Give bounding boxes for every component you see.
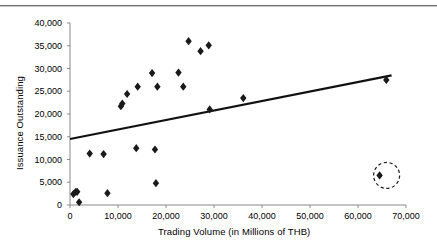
data-point-marker — [206, 41, 212, 49]
x-axis-tick-label: 60,000 — [344, 211, 372, 221]
chart-canvas — [0, 0, 437, 245]
y-axis-tick-label: 30,000 — [0, 64, 62, 74]
data-point-marker — [149, 69, 155, 77]
x-axis-tick-label: 10,000 — [104, 211, 132, 221]
x-axis-tick-label: 50,000 — [296, 211, 324, 221]
data-point-marker — [185, 37, 191, 45]
data-point-marker — [133, 144, 139, 152]
y-axis-tick-label: 5,000 — [0, 177, 62, 187]
x-axis-tick-label: 0 — [67, 211, 72, 221]
y-axis-tick-label: 40,000 — [0, 18, 62, 28]
data-point-marker — [86, 149, 92, 157]
data-point-marker — [376, 171, 382, 179]
x-axis-tick-label: 30,000 — [200, 211, 228, 221]
data-point-marker — [180, 83, 186, 91]
data-point-marker — [175, 68, 181, 76]
data-point-marker — [124, 90, 130, 98]
x-axis-tick-label: 20,000 — [152, 211, 180, 221]
y-axis-tick-label: 25,000 — [0, 86, 62, 96]
y-axis-tick-label: 10,000 — [0, 155, 62, 165]
y-axis-tick-label: 35,000 — [0, 41, 62, 51]
data-point-marker — [197, 47, 203, 55]
data-point-marker — [154, 83, 160, 91]
chart-figure: Issuance Outstanding Trading Volume (in … — [0, 0, 437, 245]
y-axis-tick-label: 20,000 — [0, 109, 62, 119]
data-point-marker — [240, 94, 246, 102]
y-axis-tick-label: 0 — [0, 200, 62, 210]
data-point-marker — [153, 179, 159, 187]
x-axis-tick-label: 40,000 — [248, 211, 276, 221]
y-axis-tick-label: 15,000 — [0, 132, 62, 142]
data-point-marker — [134, 83, 140, 91]
data-point-marker — [100, 150, 106, 158]
data-point-marker — [104, 189, 110, 197]
data-point-marker — [152, 145, 158, 153]
trend-line — [70, 75, 392, 139]
x-axis-title: Trading Volume (in Millions of THB) — [158, 226, 310, 237]
scatter-plot — [0, 0, 437, 245]
x-axis-tick-label: 70,000 — [392, 211, 420, 221]
